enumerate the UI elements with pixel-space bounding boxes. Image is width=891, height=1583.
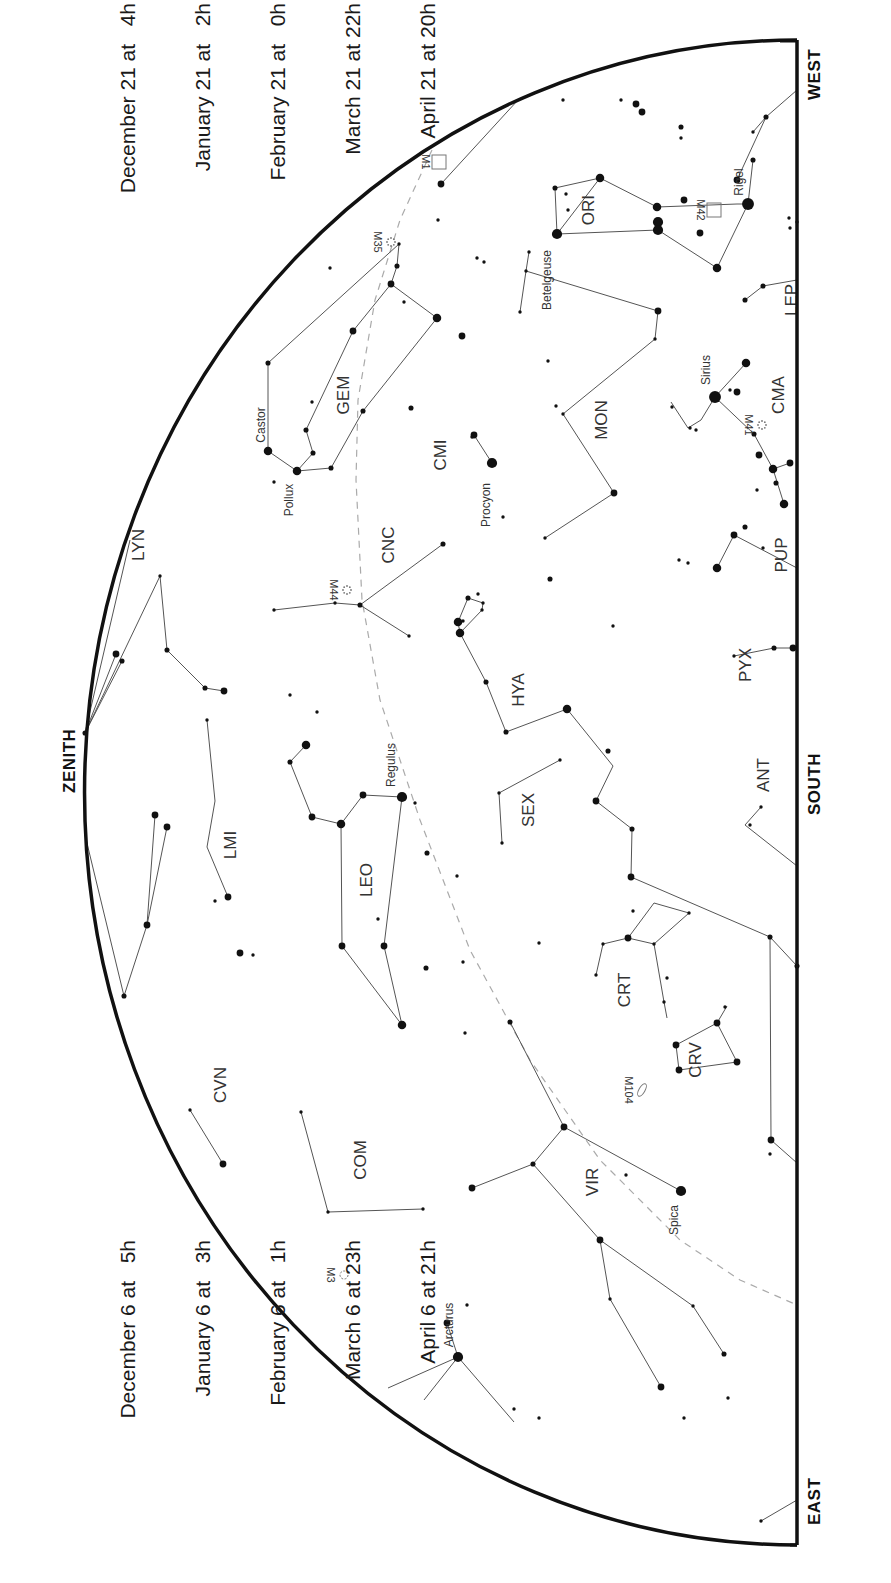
star: [302, 741, 311, 750]
star: [221, 688, 228, 695]
constellation-line: [596, 801, 632, 829]
star: [561, 412, 564, 415]
star: [558, 758, 561, 761]
star: [629, 826, 634, 831]
star: [381, 943, 388, 950]
star: [408, 405, 413, 410]
constellation-label: COM: [351, 1140, 370, 1180]
constellation-label: CNC: [379, 527, 398, 564]
star: [360, 408, 365, 413]
ecliptic-line: [356, 150, 797, 1305]
star: [597, 1237, 604, 1244]
star: [287, 759, 292, 764]
star: [518, 310, 521, 313]
star: [625, 935, 632, 942]
star: [225, 894, 232, 901]
constellation-line: [335, 603, 360, 605]
constellation-line: [124, 925, 147, 996]
direction-east: EAST: [805, 1478, 825, 1525]
constellation-line: [460, 633, 486, 682]
star: [552, 229, 562, 239]
constellation-line: [754, 434, 773, 469]
constellation-line: [655, 311, 658, 339]
star: [628, 874, 635, 881]
star: [673, 1042, 680, 1049]
constellation-line: [676, 1023, 717, 1045]
star: [476, 592, 479, 595]
star: [732, 654, 735, 657]
constellation-line: [297, 468, 331, 471]
constellation-line: [472, 1164, 533, 1188]
star: [144, 922, 151, 929]
constellation-line: [766, 90, 797, 117]
constellation-line: [610, 1299, 661, 1387]
constellation-line: [564, 1127, 681, 1191]
constellation-label: SEX: [519, 793, 538, 827]
star: [714, 1020, 721, 1027]
constellation-line: [363, 318, 437, 411]
time-row: December 21 at 4h: [115, 3, 140, 263]
star: [677, 558, 680, 561]
star: [751, 130, 754, 133]
constellation-line: [631, 829, 632, 877]
constellation-line: [207, 801, 215, 847]
constellation-line: [499, 793, 502, 843]
time-row: April 21 at 20h: [415, 3, 440, 263]
star: [756, 452, 763, 459]
constellation-line: [664, 1002, 667, 1018]
constellation-line: [85, 540, 130, 733]
constellation-label: CMA: [769, 375, 788, 413]
constellation-label: ORI: [579, 195, 598, 225]
star: [554, 404, 557, 407]
star: [503, 729, 508, 734]
direction-zenith: ZENITH: [60, 729, 80, 793]
star: [742, 524, 747, 529]
direction-south: SOUTH: [805, 753, 825, 815]
deep-sky-label: M42: [695, 199, 707, 220]
constellation-line: [745, 286, 763, 300]
star: [697, 230, 704, 237]
star: [593, 798, 600, 805]
constellation-label: LEO: [357, 863, 376, 897]
constellation-line: [628, 903, 654, 938]
constellation-line: [654, 903, 689, 913]
star: [487, 458, 497, 468]
star: [768, 1152, 771, 1155]
star: [309, 814, 316, 821]
star: [633, 101, 640, 108]
star: [424, 850, 429, 855]
star: [288, 693, 291, 696]
star: [537, 1416, 540, 1419]
constellation-line: [207, 720, 215, 801]
constellation-line: [328, 1209, 423, 1212]
star: [605, 748, 610, 753]
constellation-label: PUP: [772, 538, 791, 573]
star: [734, 1059, 741, 1066]
star: [726, 1396, 729, 1399]
constellation-line: [306, 430, 313, 453]
star: [561, 98, 564, 101]
constellation-line: [526, 252, 529, 271]
star: [665, 976, 668, 979]
constellation-label: LYN: [129, 529, 148, 561]
star: [611, 624, 614, 627]
constellation-line: [301, 1112, 328, 1212]
constellation-line: [353, 284, 391, 331]
star-name-label: Procyon: [479, 483, 493, 527]
constellation-line: [761, 1500, 797, 1521]
star: [433, 314, 442, 323]
star: [202, 685, 207, 690]
constellation-label: CRT: [615, 973, 634, 1008]
constellation-label: MON: [592, 400, 611, 440]
star: [480, 608, 483, 611]
star: [461, 619, 464, 622]
star: [759, 1519, 762, 1522]
constellation-line: [748, 160, 753, 204]
constellation-line: [510, 1022, 564, 1127]
star: [339, 943, 346, 950]
constellation-label: GEM: [334, 376, 353, 415]
star-name-label: Sirius: [699, 355, 713, 385]
constellation-line: [715, 363, 746, 397]
star: [662, 1000, 665, 1003]
star: [653, 337, 656, 340]
